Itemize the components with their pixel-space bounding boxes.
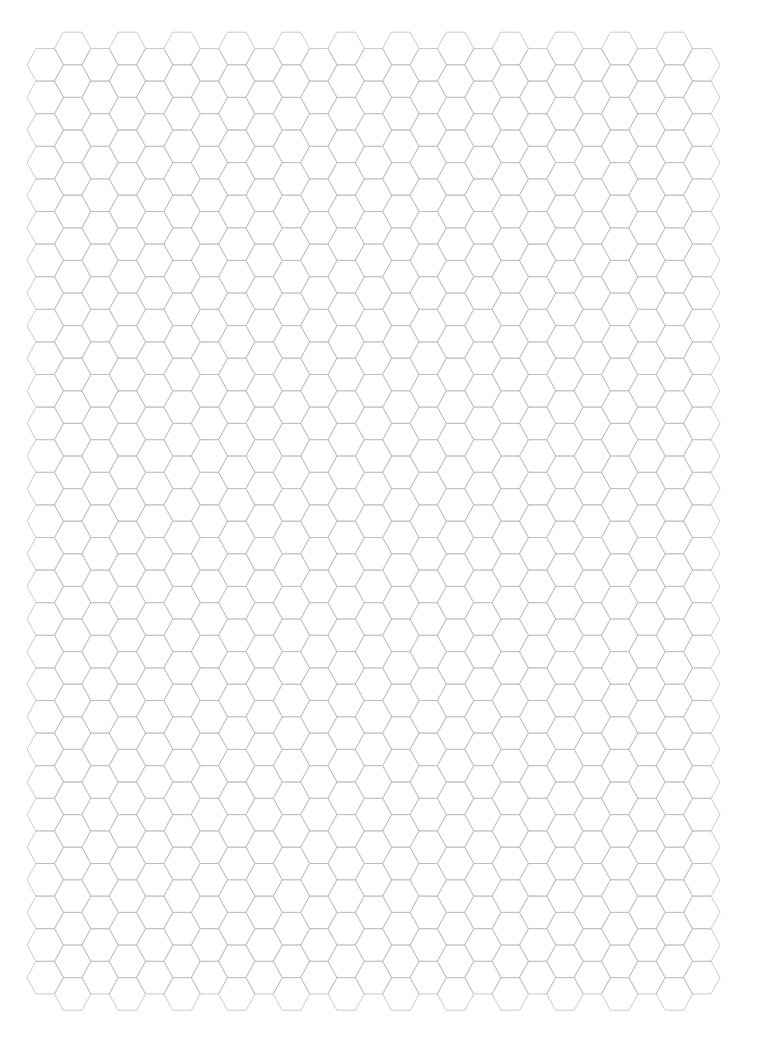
hex-cell <box>191 505 228 538</box>
hex-cell <box>191 244 228 277</box>
hex-cell <box>683 309 720 342</box>
hex-cell <box>301 277 338 310</box>
hex-cell <box>629 179 666 212</box>
hex-cell <box>273 130 310 163</box>
hex-cell <box>136 407 173 440</box>
hex-cell <box>410 505 447 538</box>
hex-cell <box>683 146 720 179</box>
hex-cell <box>218 456 255 489</box>
hex-cell <box>383 456 420 489</box>
hex-cell <box>82 114 119 147</box>
hex-cell <box>109 978 146 1011</box>
hex-cell <box>27 929 64 962</box>
hex-cell <box>164 195 201 228</box>
hex-cell <box>54 32 91 65</box>
hex-cell <box>301 146 338 179</box>
hex-cell <box>683 798 720 831</box>
hex-cell <box>629 831 666 864</box>
hex-cell <box>136 603 173 636</box>
hex-cell <box>629 342 666 375</box>
hex-cell <box>246 114 283 147</box>
hex-cell <box>601 945 638 978</box>
hex-cell <box>273 32 310 65</box>
hex-cell <box>164 260 201 293</box>
hex-cell <box>191 668 228 701</box>
hex-cell <box>383 260 420 293</box>
hex-cell <box>465 505 502 538</box>
hex-cell <box>355 766 392 799</box>
hex-cell <box>164 782 201 815</box>
hex-cell <box>629 570 666 603</box>
hex-cell <box>547 97 584 130</box>
hex-cell <box>601 423 638 456</box>
hex-cell <box>328 195 365 228</box>
hex-cell <box>246 375 283 408</box>
hex-cell <box>301 81 338 114</box>
hex-cell <box>164 847 201 880</box>
hex-cell <box>218 912 255 945</box>
hex-cell <box>191 342 228 375</box>
hex-cell <box>164 65 201 98</box>
hex-cell <box>82 831 119 864</box>
hex-cell <box>410 635 447 668</box>
hex-cell <box>355 407 392 440</box>
hex-cell <box>465 407 502 440</box>
hex-cell <box>519 538 556 571</box>
hex-cell <box>683 961 720 994</box>
hex-cell <box>191 570 228 603</box>
hex-cell <box>301 407 338 440</box>
hex-cell <box>492 293 529 326</box>
hex-cell <box>629 961 666 994</box>
hex-cell <box>328 163 365 196</box>
hex-cell <box>519 733 556 766</box>
hex-cell <box>328 782 365 815</box>
hex-cell <box>273 228 310 261</box>
hex-cell <box>328 815 365 848</box>
hex-cell <box>410 668 447 701</box>
hex-cell <box>629 407 666 440</box>
hex-cell <box>683 896 720 929</box>
hex-cell <box>27 798 64 831</box>
hex-cell <box>164 97 201 130</box>
hex-cell <box>547 358 584 391</box>
hex-cell <box>492 717 529 750</box>
hex-cell <box>410 864 447 897</box>
hex-cell <box>27 733 64 766</box>
hex-cell <box>410 896 447 929</box>
hex-cell <box>547 163 584 196</box>
hex-cell <box>547 717 584 750</box>
hex-cell <box>437 293 474 326</box>
hex-cell <box>383 684 420 717</box>
hex-cell <box>218 65 255 98</box>
hex-cell <box>492 945 529 978</box>
hex-cell <box>109 65 146 98</box>
graph-paper-page <box>0 0 765 1049</box>
hex-cell <box>410 179 447 212</box>
hex-cell <box>383 163 420 196</box>
hex-cell <box>601 260 638 293</box>
hex-cell <box>683 603 720 636</box>
hex-cell <box>301 766 338 799</box>
hex-cell <box>218 32 255 65</box>
hex-cell <box>492 619 529 652</box>
hex-cell <box>410 342 447 375</box>
hex-cell <box>218 554 255 587</box>
hex-cell <box>410 440 447 473</box>
hex-cell <box>328 912 365 945</box>
hex-cell <box>519 505 556 538</box>
hex-cell <box>109 391 146 424</box>
hex-cell <box>82 929 119 962</box>
hex-cell <box>519 635 556 668</box>
hex-cell <box>27 81 64 114</box>
hex-cell <box>574 81 611 114</box>
hex-cell <box>218 880 255 913</box>
hex-cell <box>218 326 255 359</box>
hex-cell <box>601 717 638 750</box>
hex-cell <box>82 733 119 766</box>
hex-cell <box>273 260 310 293</box>
hex-cell <box>246 49 283 82</box>
hex-cell <box>410 766 447 799</box>
hex-cell <box>519 570 556 603</box>
hex-cell <box>355 929 392 962</box>
hex-cell <box>437 684 474 717</box>
